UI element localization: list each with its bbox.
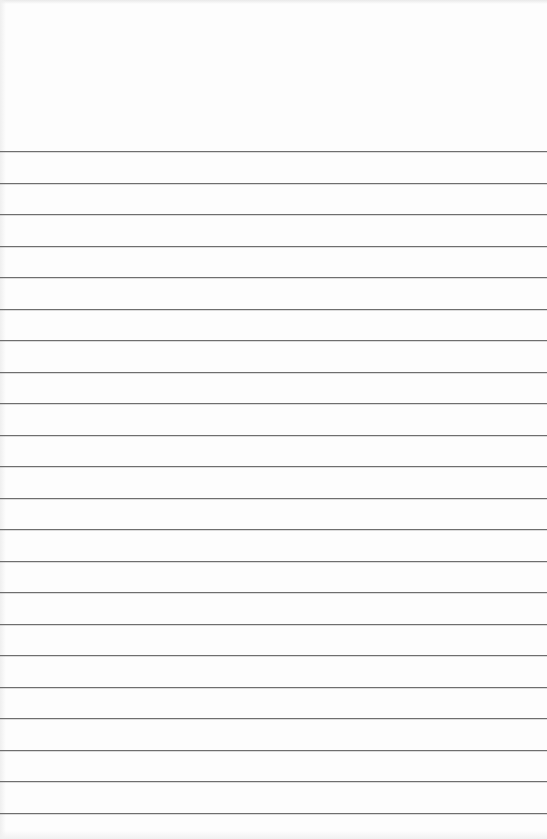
ruled-line [0,624,547,625]
ruled-line [0,435,547,436]
ruled-line [0,340,547,341]
ruled-line [0,498,547,499]
ruled-line [0,246,547,247]
ruled-line [0,529,547,530]
ruled-line [0,655,547,656]
paper-bottom-edge [0,831,547,839]
ruled-line [0,183,547,184]
ruled-line [0,372,547,373]
paper-top-edge [0,0,547,4]
ruled-line [0,561,547,562]
ruled-line [0,750,547,751]
ruled-line [0,277,547,278]
ruled-line [0,403,547,404]
ruled-line [0,592,547,593]
ruled-line [0,214,547,215]
ruled-line [0,813,547,814]
ruled-line [0,309,547,310]
ruled-line [0,151,547,152]
ruled-line [0,781,547,782]
ruled-line [0,718,547,719]
ruled-line [0,687,547,688]
paper-left-edge [0,0,6,839]
ruled-line [0,466,547,467]
